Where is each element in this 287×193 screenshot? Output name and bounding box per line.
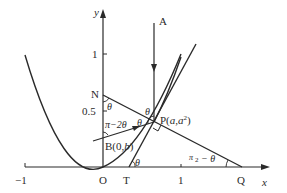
x-tick-1: 1 xyxy=(178,174,184,186)
x-axis xyxy=(25,163,270,170)
y-tick-1: 1 xyxy=(92,48,98,60)
angle-arc-B xyxy=(103,132,108,135)
angle-theta-N: θ xyxy=(107,101,112,112)
y-axis-arrow-icon xyxy=(100,9,106,18)
svg-text:− θ: − θ xyxy=(201,153,215,164)
diagram-svg: y x −1 1 1 0.5 O T Q N A P(a,a2) B(0,b) … xyxy=(0,0,287,193)
svg-text:π: π xyxy=(189,153,194,162)
point-B-label: B(0,b) xyxy=(105,140,134,153)
x-axis-arrow-icon xyxy=(261,164,270,170)
parabolic-reflection-diagram: y x −1 1 1 0.5 O T Q N A P(a,a2) B(0,b) … xyxy=(0,0,287,193)
point-A-label: A xyxy=(159,15,167,27)
y-tick-0-5: 0.5 xyxy=(82,105,96,117)
angle-theta-P-top: θ xyxy=(145,106,150,117)
incident-ray-arrow-icon xyxy=(151,64,157,72)
point-O-label: O xyxy=(99,174,107,186)
angle-pi-minus-2theta: π−2θ xyxy=(105,119,127,130)
point-Q-label: Q xyxy=(237,174,245,186)
y-axis-label: y xyxy=(93,6,99,18)
point-T-label: T xyxy=(123,174,130,186)
x-tick-minus-1: −1 xyxy=(15,174,27,186)
angle-theta-T: θ xyxy=(135,157,140,168)
angle-theta-P-left: θ xyxy=(137,117,142,128)
x-axis-label: x xyxy=(261,176,267,188)
point-N-label: N xyxy=(91,88,99,100)
tangent-line xyxy=(129,44,196,167)
point-P-label: P(a,a2) xyxy=(160,114,191,127)
angle-half-pi-minus-theta: π 2 − θ xyxy=(189,153,215,164)
svg-text:2: 2 xyxy=(195,156,199,164)
angle-arc-Q xyxy=(226,160,228,167)
